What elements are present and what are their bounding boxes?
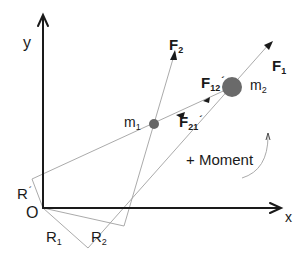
f2-symbol: F [169,36,178,53]
mass-m1 [149,119,159,129]
r1-symbol: R [46,228,57,245]
m1-label: m1 [124,115,141,132]
f2-subscript: 2 [178,45,183,55]
m2-label: m2 [250,78,267,95]
f1-line-of-action [88,43,270,248]
f21-symbol: F [179,113,188,130]
m1-symbol: m [124,114,136,130]
f12-subscript: 12 [210,83,220,93]
x-axis-label: x [285,210,292,224]
f21-subscript: 21 [188,122,198,132]
axes [38,15,281,213]
f2-label: F2 [169,37,183,55]
mass-m2 [222,77,242,97]
f12-symbol: F [201,74,210,91]
y-axis-label: y [23,35,31,51]
r2-line [43,208,124,226]
f21-label: F21´ [179,114,203,132]
r2-symbol: R [91,228,102,245]
r1-label: R1 [46,229,62,247]
f1-subscript: 1 [281,66,286,76]
r-prime-label: R´ [17,186,32,201]
f2-line-of-action [124,52,175,226]
origin-label: O [26,205,38,221]
r-prime-mark: ´ [29,186,32,197]
f1-label: F1 [272,58,286,76]
f12-prime: ´ [221,75,224,86]
f12-label: F12´ [201,75,225,93]
physics-diagram [0,0,308,258]
m2-subscript: 2 [262,85,267,95]
moment-label: + Moment [186,152,253,167]
construction-lines [32,43,270,248]
m2-symbol: m [250,77,262,93]
r2-subscript: 2 [102,237,107,247]
r1-subscript: 1 [57,237,62,247]
r2-label: R2 [91,229,107,247]
f1-symbol: F [272,57,281,74]
m1-subscript: 1 [136,122,141,132]
r-prime-symbol: R [17,185,28,202]
f21-prime: ´ [199,114,202,125]
